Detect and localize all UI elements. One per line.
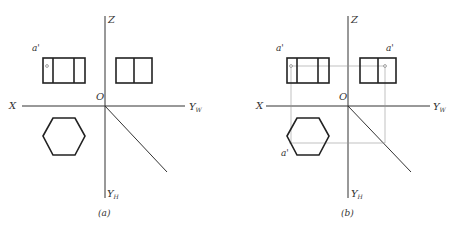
45-degree-line — [348, 106, 411, 172]
panel-b: Z X O YW YH a' a' a' (b) — [255, 14, 447, 218]
label-z: Z — [107, 14, 116, 25]
front-view-rect — [287, 58, 329, 83]
label-a-prime-side: a' — [386, 43, 394, 53]
point-a-front — [46, 65, 49, 68]
label-yh: YH — [107, 188, 120, 200]
panel-a: Z X O YW YH a' (a) — [8, 14, 203, 218]
point-a-front — [290, 65, 293, 68]
top-view-hexagon — [43, 118, 85, 155]
caption-b: (b) — [341, 208, 354, 218]
caption-a: (a) — [98, 208, 111, 218]
projection-diagram: Z X O YW YH a' (a) Z X O YW YH a' a' a' … — [0, 0, 456, 236]
label-a-prime-front: a' — [276, 43, 284, 53]
label-yw: YW — [189, 101, 203, 113]
label-origin: O — [96, 91, 104, 102]
front-view-rect — [43, 58, 85, 83]
label-a-prime: a' — [32, 43, 40, 53]
label-x: X — [8, 100, 17, 111]
45-degree-line — [105, 106, 167, 172]
label-z: Z — [350, 14, 359, 25]
label-yw: YW — [433, 101, 447, 113]
point-a-side — [384, 65, 387, 68]
label-yh: YH — [351, 188, 364, 200]
label-x: X — [255, 100, 264, 111]
label-a-prime-top: a' — [281, 148, 289, 158]
top-view-hexagon — [287, 118, 329, 155]
label-origin: O — [339, 91, 347, 102]
